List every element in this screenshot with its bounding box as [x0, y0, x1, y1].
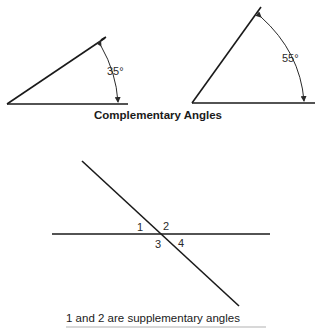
- complementary-angles-title: Complementary Angles: [94, 109, 222, 121]
- supplementary-caption: 1 and 2 are supplementary angles: [66, 312, 240, 324]
- supplementary-figure: 1 2 3 4: [52, 161, 270, 306]
- angle-2-label: 2: [163, 220, 169, 232]
- angle-35-figure: 35°: [7, 37, 128, 104]
- angle-3-label: 3: [155, 238, 161, 250]
- angle-35-upper-ray: [7, 38, 105, 104]
- angle-35-label: 35°: [107, 65, 124, 77]
- angles-diagram: 35° 55° Complementary Angles 1 2 3 4 1 a…: [0, 0, 318, 328]
- angle-1-label: 1: [137, 221, 143, 233]
- angle-55-upper-ray: [192, 7, 261, 103]
- angle-55-figure: 55°: [192, 7, 315, 103]
- angle-4-label: 4: [178, 237, 184, 249]
- angle-55-label: 55°: [282, 52, 299, 64]
